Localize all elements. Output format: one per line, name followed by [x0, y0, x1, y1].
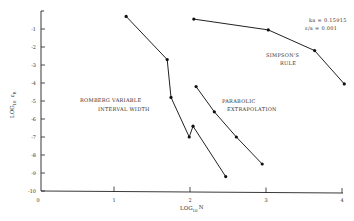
- y-tick-label: -10: [28, 188, 36, 194]
- data-point: [261, 162, 264, 165]
- series-label: PARABOLIC: [222, 98, 256, 104]
- x-tick-label: 0: [36, 197, 39, 203]
- data-point: [194, 85, 197, 88]
- y-tick-label: -4: [31, 80, 36, 86]
- data-point: [313, 49, 316, 52]
- data-point: [125, 15, 128, 18]
- y-tick-label: -2: [31, 44, 36, 50]
- data-point: [188, 135, 191, 138]
- y-tick-label: -1: [31, 26, 36, 32]
- data-point: [213, 110, 216, 113]
- x-label-sub: 10: [193, 208, 199, 213]
- data-series: [125, 15, 346, 178]
- svg-text:LOG10N: LOG10N: [180, 204, 204, 213]
- y-ticks: -1-2-3-4-5-6-7-8-9-10: [28, 26, 45, 194]
- series-labels: ROMBERG VARIABLEINTERVAL WIDTHPARABOLICE…: [80, 52, 300, 112]
- x-label-var: N: [199, 204, 204, 210]
- x-ticks: 01234: [36, 187, 343, 204]
- annotation-eps: ε/a = 0.001: [305, 25, 337, 31]
- data-point: [169, 96, 172, 99]
- y-tick-label: -9: [31, 170, 36, 176]
- y-tick-label: -5: [31, 98, 36, 104]
- annotation-ka: ka = 0.15915: [309, 17, 347, 23]
- x-tick-label: 4: [340, 197, 343, 203]
- x-axis: [41, 191, 343, 193]
- series-label: INTERVAL WIDTH: [98, 106, 150, 112]
- x-label-log: LOG: [180, 205, 193, 211]
- y-tick-label: -7: [31, 134, 36, 140]
- y-axis-label: LOG10εR: [9, 90, 17, 118]
- data-point: [343, 82, 346, 85]
- x-tick-label: 3: [264, 197, 267, 203]
- x-tick-label: 2: [188, 197, 191, 203]
- annotation: ka = 0.15915 ε/a = 0.001: [305, 17, 347, 31]
- data-point: [192, 18, 195, 21]
- data-point: [224, 175, 227, 178]
- y-label-sub: 10: [12, 100, 17, 106]
- x-tick-label: 1: [112, 197, 115, 203]
- data-point: [267, 28, 270, 31]
- data-point: [166, 58, 169, 61]
- series-label: SIMPSON'S: [266, 52, 300, 58]
- y-tick-label: -3: [31, 62, 36, 68]
- data-point: [235, 135, 238, 138]
- svg-text:LOG10εR: LOG10εR: [9, 90, 17, 118]
- series-label: EXTRAPOLATION: [227, 106, 277, 112]
- x-axis-label: LOG10N: [180, 204, 204, 213]
- data-point: [191, 125, 194, 128]
- series-label: RULE: [280, 60, 296, 66]
- series-label: ROMBERG VARIABLE: [80, 97, 141, 103]
- y-tick-label: -6: [31, 116, 36, 122]
- y-label-log: LOG: [9, 105, 15, 118]
- y-tick-label: -8: [31, 152, 36, 158]
- y-label-var-sub: R: [12, 90, 17, 94]
- convergence-chart: -1-2-3-4-5-6-7-8-9-10 01234 ROMBERG VARI…: [0, 0, 354, 221]
